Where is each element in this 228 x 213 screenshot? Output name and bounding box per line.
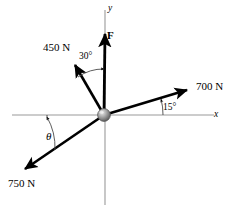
vector-450N bbox=[75, 65, 104, 115]
y-axis-label: y bbox=[108, 4, 112, 14]
angle-15-label: 15° bbox=[163, 103, 176, 113]
origin-marker bbox=[98, 109, 111, 122]
force-450n-label: 450 N bbox=[43, 42, 70, 53]
angle-30-label: 30° bbox=[79, 52, 92, 62]
angle-theta-label: θ bbox=[46, 131, 51, 142]
vector-F bbox=[104, 34, 105, 115]
vector-750N bbox=[25, 115, 104, 169]
figure-canvas: 450 N 700 N 750 N F 30° 15° θ x y bbox=[0, 0, 228, 213]
force-750n-label: 750 N bbox=[8, 178, 35, 189]
force-700n-label: 700 N bbox=[196, 81, 223, 92]
resultant-force-label: F bbox=[107, 30, 114, 41]
x-axis-label: x bbox=[214, 110, 218, 120]
